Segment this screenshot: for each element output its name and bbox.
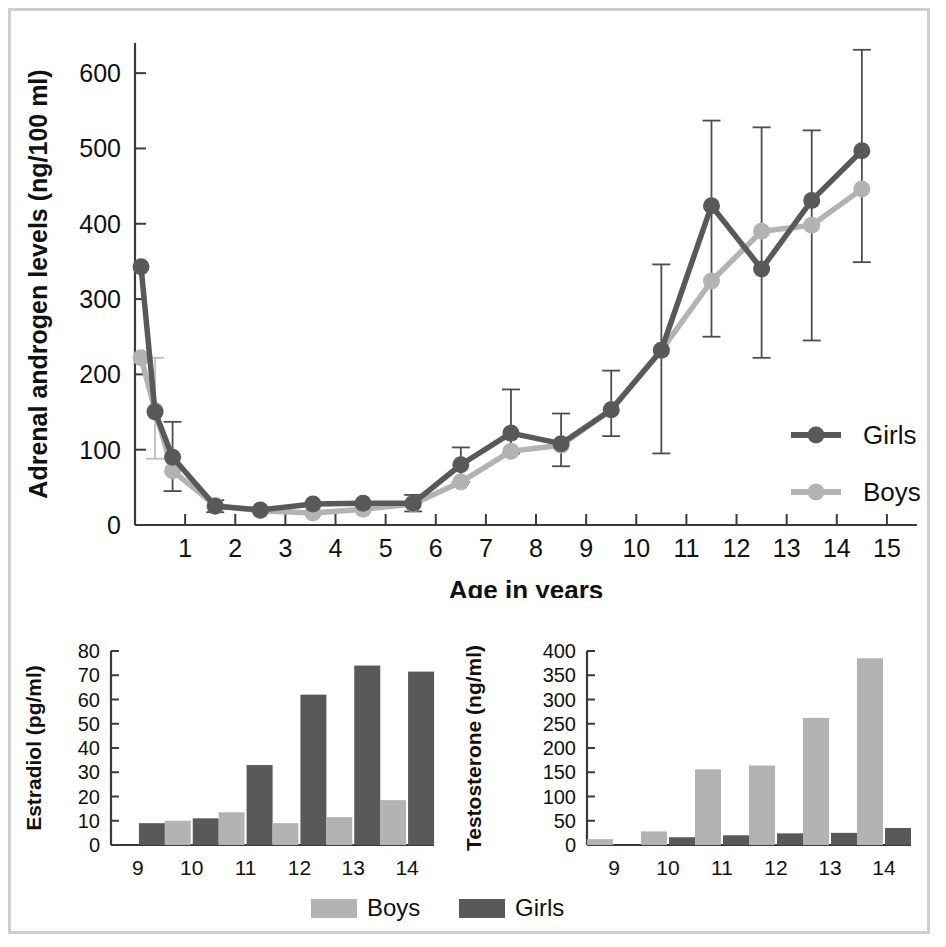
x-tick-label: 12 xyxy=(764,856,787,879)
bottom-legend-svg: BoysGirls xyxy=(11,889,927,933)
plot-area: 050100150200250300350400 xyxy=(543,640,911,856)
bar xyxy=(380,800,406,845)
bottom-legend: BoysGirls xyxy=(11,889,927,933)
data-point xyxy=(753,260,770,277)
data-point xyxy=(405,495,422,512)
line-chart-svg: 0100200300400500600123456789101112131415… xyxy=(11,3,927,598)
x-tick-label: 13 xyxy=(818,856,841,879)
bar xyxy=(695,769,721,845)
bar xyxy=(749,765,775,845)
data-point xyxy=(452,474,469,491)
bars: 91011121314 xyxy=(132,666,434,879)
bar xyxy=(803,718,829,845)
data-point xyxy=(252,501,269,518)
testosterone-bar-chart: 05010015020025030035040091011121314Testo… xyxy=(459,623,925,883)
data-point xyxy=(553,435,570,452)
data-point xyxy=(133,258,150,275)
data-point xyxy=(304,495,321,512)
bar xyxy=(139,823,165,845)
legend-swatch xyxy=(459,899,505,918)
y-tick-label: 20 xyxy=(78,786,100,808)
data-point xyxy=(853,142,870,159)
bar xyxy=(272,823,298,845)
x-tick-label: 11 xyxy=(711,856,733,879)
y-tick-label: 200 xyxy=(543,737,576,759)
data-point xyxy=(603,401,620,418)
figure-canvas: 0100200300400500600123456789101112131415… xyxy=(11,11,927,931)
x-tick-label: 14 xyxy=(395,856,419,879)
y-tick-label: 30 xyxy=(78,761,100,783)
y-axis-title: Testosterone (ng/ml) xyxy=(462,645,485,851)
bar xyxy=(831,833,857,845)
y-tick-label: 100 xyxy=(79,436,121,464)
x-tick-label: 10 xyxy=(622,534,650,562)
x-tick-label: 10 xyxy=(656,856,679,879)
bar xyxy=(408,672,434,845)
y-tick-label: 150 xyxy=(543,761,576,783)
data-point xyxy=(853,181,870,198)
y-tick-label: 400 xyxy=(543,640,576,662)
y-tick-label: 350 xyxy=(543,664,576,686)
estradiol-bar-chart: 0102030405060708091011121314Estradiol (p… xyxy=(19,623,449,883)
y-tick-label: 0 xyxy=(565,834,576,856)
y-tick-label: 500 xyxy=(79,134,121,162)
y-tick-label: 50 xyxy=(554,810,576,832)
x-tick-label: 12 xyxy=(723,534,751,562)
x-tick-label: 13 xyxy=(342,856,365,879)
y-tick-label: 600 xyxy=(79,59,121,87)
x-tick-label: 6 xyxy=(429,534,443,562)
bar xyxy=(885,828,911,845)
data-point xyxy=(452,456,469,473)
data-point xyxy=(803,217,820,234)
legend-label: Boys xyxy=(863,477,921,507)
x-tick-label: 9 xyxy=(579,534,593,562)
data-point xyxy=(147,404,164,421)
y-tick-label: 300 xyxy=(543,689,576,711)
data-point xyxy=(753,223,770,240)
bar xyxy=(777,833,803,845)
y-tick-label: 0 xyxy=(107,511,121,539)
bar xyxy=(669,837,695,845)
y-tick-label: 250 xyxy=(543,713,576,735)
x-tick-label: 15 xyxy=(873,534,901,562)
x-axis-title: Age in years xyxy=(449,575,604,598)
bar xyxy=(300,695,326,845)
x-tick-label: 13 xyxy=(773,534,801,562)
data-point xyxy=(164,449,181,466)
series-line xyxy=(141,189,862,513)
x-tick-label: 11 xyxy=(673,534,699,562)
series-boys xyxy=(133,181,871,522)
data-point xyxy=(502,443,519,460)
error-bars xyxy=(146,50,871,512)
y-tick-label: 0 xyxy=(89,834,100,856)
x-tick-label: 4 xyxy=(329,534,343,562)
bar xyxy=(326,817,352,845)
data-point xyxy=(803,192,820,209)
bar xyxy=(354,666,380,845)
x-tick-label: 5 xyxy=(379,534,393,562)
y-tick-label: 80 xyxy=(78,640,100,662)
bar xyxy=(857,658,883,845)
x-tick-label: 1 xyxy=(178,534,192,562)
line-chart-legend: GirlsBoys xyxy=(791,420,921,507)
data-point xyxy=(502,425,519,442)
legend-label: Boys xyxy=(367,894,420,921)
data-point xyxy=(703,197,720,214)
bar xyxy=(247,765,273,845)
x-tick-label: 9 xyxy=(132,856,144,879)
data-point xyxy=(703,272,720,289)
figure-frame: 0100200300400500600123456789101112131415… xyxy=(8,8,930,934)
bar xyxy=(587,839,613,845)
bar xyxy=(641,831,667,845)
x-tick-label: 7 xyxy=(479,534,493,562)
data-point xyxy=(355,495,372,512)
adrenal-androgen-line-chart: 0100200300400500600123456789101112131415… xyxy=(11,3,927,598)
legend-label: Girls xyxy=(863,420,916,450)
x-tick-label: 8 xyxy=(529,534,543,562)
y-tick-label: 300 xyxy=(79,285,121,313)
bar xyxy=(723,835,749,845)
x-tick-label: 11 xyxy=(235,856,257,879)
bar xyxy=(193,818,219,845)
y-tick-label: 400 xyxy=(79,210,121,238)
y-tick-label: 70 xyxy=(78,664,100,686)
